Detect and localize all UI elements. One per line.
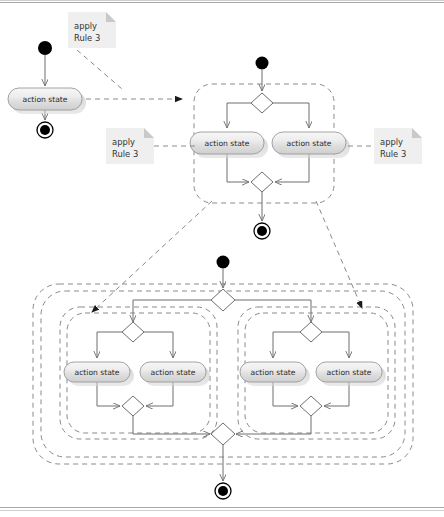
note-middle-line2: Rule 3 <box>112 149 138 159</box>
activity-diagram-svg: action state action state action state a… <box>0 0 444 517</box>
note-right-line1: apply <box>380 137 403 147</box>
note-middle-line1: apply <box>112 137 135 147</box>
action-state-c4[interactable]: action state <box>316 362 386 386</box>
edge-fork-top-to-action-b2 <box>273 103 309 128</box>
action-state-c1[interactable]: action state <box>64 362 134 386</box>
edge-fork-right-to-action-c4 <box>322 332 349 358</box>
action-state-b1-label: action state <box>204 139 249 148</box>
note-top-left-fold-icon <box>106 12 116 22</box>
final-node-3 <box>215 483 231 499</box>
action-states: action state action state action state a… <box>8 88 386 386</box>
edge-merge-right-to-merge-main <box>236 416 311 434</box>
initial-node-1 <box>38 41 52 55</box>
action-state-c2-label: action state <box>150 368 195 377</box>
edge-fork-top-to-action-b1 <box>227 103 251 128</box>
fork-left-bottom-diamond <box>122 322 144 342</box>
action-state-c1-label: action state <box>74 368 119 377</box>
initial-node-2 <box>256 57 269 70</box>
merge-main-bottom-diamond <box>211 423 235 445</box>
note-right-fold-icon <box>412 128 422 138</box>
fork-right-bottom-diamond <box>300 322 322 342</box>
edge-merge-left-to-merge-main <box>133 416 210 434</box>
final-node-2 <box>254 223 270 239</box>
activity-diagram-canvas: action state action state action state a… <box>0 0 444 517</box>
note-right-line2: Rule 3 <box>380 149 406 159</box>
action-state-a-label: action state <box>22 95 67 104</box>
note-right[interactable]: apply Rule 3 <box>374 128 422 164</box>
action-state-b2[interactable]: action state <box>272 132 350 158</box>
edge-fork-left-to-action-c2 <box>144 332 173 358</box>
final-nodes <box>37 122 270 499</box>
action-state-c3[interactable]: action state <box>240 362 310 386</box>
edge-fork-right-to-action-c3 <box>273 332 300 358</box>
edge-action-b2-to-merge-top <box>275 154 309 182</box>
action-state-c2[interactable]: action state <box>140 362 210 386</box>
merge-top-diamond <box>251 172 273 192</box>
action-state-b1[interactable]: action state <box>190 132 268 158</box>
final-node-1 <box>37 122 53 138</box>
merge-right-bottom-diamond <box>300 396 322 416</box>
fork-top-diamond <box>251 93 273 113</box>
note-top-left-line1: apply <box>74 21 97 31</box>
edge-fork-main-to-fork-right <box>235 300 311 322</box>
fork-main-bottom-diamond <box>211 289 235 311</box>
edge-fork-left-to-action-c1 <box>97 332 122 358</box>
initial-node-3 <box>217 256 230 269</box>
note-top-left-line2: Rule 3 <box>74 33 100 43</box>
note-middle[interactable]: apply Rule 3 <box>106 128 154 164</box>
merge-left-bottom-diamond <box>122 396 144 416</box>
action-state-a[interactable]: action state <box>8 88 86 114</box>
edge-action-b1-to-merge-top <box>227 154 249 182</box>
note-middle-fold-icon <box>144 128 154 138</box>
note-top-left[interactable]: apply Rule 3 <box>68 12 116 48</box>
action-state-b2-label: action state <box>286 139 331 148</box>
action-state-c3-label: action state <box>250 368 295 377</box>
note-anchor-line-1 <box>77 50 122 89</box>
rule-arrow-top-composite-to-bottom-right <box>316 201 362 308</box>
rule-arrow-top-composite-to-bottom-left <box>92 201 212 312</box>
action-state-c4-label: action state <box>326 368 371 377</box>
edge-fork-main-to-fork-left <box>133 300 211 322</box>
